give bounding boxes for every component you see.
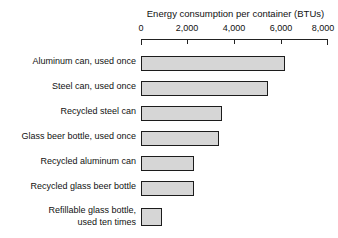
chart-row-label: Recycled aluminum can <box>0 156 136 167</box>
chart-row-label: Glass beer bottle, used once <box>0 131 136 142</box>
chart-bar <box>141 81 268 96</box>
chart-bar <box>141 208 162 226</box>
chart-row-aluminum-can-used-once: Aluminum can, used once <box>0 56 338 74</box>
chart-row-recycled-glass-beer-bottle: Recycled glass beer bottle <box>0 181 338 199</box>
chart-row-label: Aluminum can, used once <box>0 56 136 67</box>
bar-chart: Energy consumption per container (BTUs) … <box>0 0 338 238</box>
chart-row-steel-can-used-once: Steel can, used once <box>0 81 338 99</box>
chart-row-label: Steel can, used once <box>0 81 136 92</box>
chart-bar <box>141 181 194 196</box>
chart-row-recycled-steel-can: Recycled steel can <box>0 106 338 124</box>
chart-row-label: Refillable glass bottle,used ten times <box>0 205 136 228</box>
chart-bar <box>141 131 219 146</box>
chart-row-label-line1: Refillable glass bottle, <box>48 205 136 215</box>
chart-row-label: Recycled steel can <box>0 106 136 117</box>
chart-row-refillable-glass-bottle-used-ten-times: Refillable glass bottle,used ten times <box>0 206 338 230</box>
chart-row-label-line2: used ten times <box>77 217 136 227</box>
chart-rows: Aluminum can, used once Steel can, used … <box>0 0 338 238</box>
chart-bar <box>141 106 222 121</box>
chart-row-glass-beer-bottle-used-once: Glass beer bottle, used once <box>0 131 338 149</box>
chart-bar <box>141 156 194 171</box>
chart-row-recycled-aluminum-can: Recycled aluminum can <box>0 156 338 174</box>
chart-row-label: Recycled glass beer bottle <box>0 181 136 192</box>
chart-bar <box>141 56 285 71</box>
